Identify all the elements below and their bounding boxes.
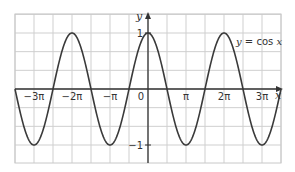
cosine-chart: −3π−2π−π0π2π3π 1−1 x y y = cos x: [0, 0, 295, 172]
y-tick-label: −1: [128, 140, 143, 151]
x-tick-label: −3π: [24, 91, 45, 102]
y-axis-arrow-icon: [145, 12, 151, 19]
curve-label-eq: = cos: [242, 36, 277, 47]
x-tick-label: 0: [138, 91, 144, 102]
curve-label: y = cos x: [235, 36, 282, 47]
x-tick-label: −π: [103, 91, 117, 102]
y-tick-label: 1: [137, 28, 143, 39]
x-axis-label: x: [275, 89, 282, 102]
x-tick-label: 2π: [218, 91, 230, 102]
x-tick-labels: −3π−2π−π0π2π3π: [24, 91, 269, 102]
x-tick-label: π: [183, 91, 189, 102]
x-tick-label: −2π: [62, 91, 83, 102]
curve-label-x: x: [276, 36, 282, 47]
x-tick-label: 3π: [256, 91, 268, 102]
y-axis-label: y: [135, 10, 143, 23]
